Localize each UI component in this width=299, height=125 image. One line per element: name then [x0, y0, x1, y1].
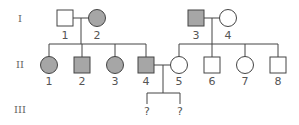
female-unaffected-symbol	[237, 57, 254, 74]
individual-number: 3	[193, 29, 200, 42]
individual-number: 1	[46, 75, 53, 88]
pedigree-chart: I II III 1 2 3 4 1 2 3	[0, 0, 299, 125]
individual-number: 4	[143, 75, 150, 88]
female-affected-symbol	[89, 10, 106, 27]
unknown-offspring-marker: ?	[177, 105, 183, 118]
male-affected-symbol	[74, 57, 90, 73]
female-unaffected-symbol	[171, 57, 188, 74]
generation-label-iii: III	[14, 104, 26, 115]
male-unaffected-symbol	[57, 10, 73, 26]
individual-number: 6	[209, 75, 216, 88]
female-affected-symbol	[41, 57, 58, 74]
male-unaffected-symbol	[204, 57, 220, 73]
individual-number: 2	[79, 75, 86, 88]
individual-number: 5	[176, 75, 183, 88]
male-affected-symbol	[188, 10, 204, 26]
individual-number: 4	[225, 29, 232, 42]
unknown-offspring-marker: ?	[144, 105, 150, 118]
individual-number: 8	[275, 75, 282, 88]
male-unaffected-symbol	[270, 57, 286, 73]
individual-number: 1	[62, 29, 69, 42]
female-affected-symbol	[107, 57, 124, 74]
individual-number: 3	[112, 75, 119, 88]
individual-number: 7	[242, 75, 249, 88]
male-affected-symbol	[138, 57, 154, 73]
female-unaffected-symbol	[220, 10, 237, 27]
generation-label-i: I	[18, 13, 22, 24]
generation-label-ii: II	[16, 59, 24, 70]
individual-number: 2	[94, 29, 101, 42]
